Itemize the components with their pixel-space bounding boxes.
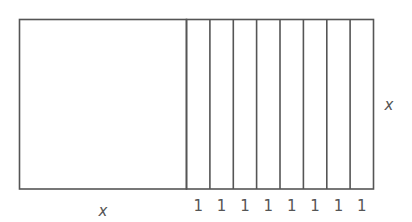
- square-width-label: x: [98, 202, 108, 220]
- strip-width-label: 1: [264, 197, 274, 215]
- height-label: x: [384, 96, 394, 114]
- strip-width-label: 1: [193, 197, 203, 215]
- strip-width-label: 1: [310, 197, 320, 215]
- strip-width-label: 1: [217, 197, 227, 215]
- area-model-diagram: x x 1 1 1 1 1 1 1 1: [0, 0, 412, 222]
- strip-width-label: 1: [240, 197, 250, 215]
- strip-width-label: 1: [334, 197, 344, 215]
- strip-width-label: 1: [357, 197, 367, 215]
- strip-width-label: 1: [287, 197, 297, 215]
- x-by-x-square: [20, 20, 187, 190]
